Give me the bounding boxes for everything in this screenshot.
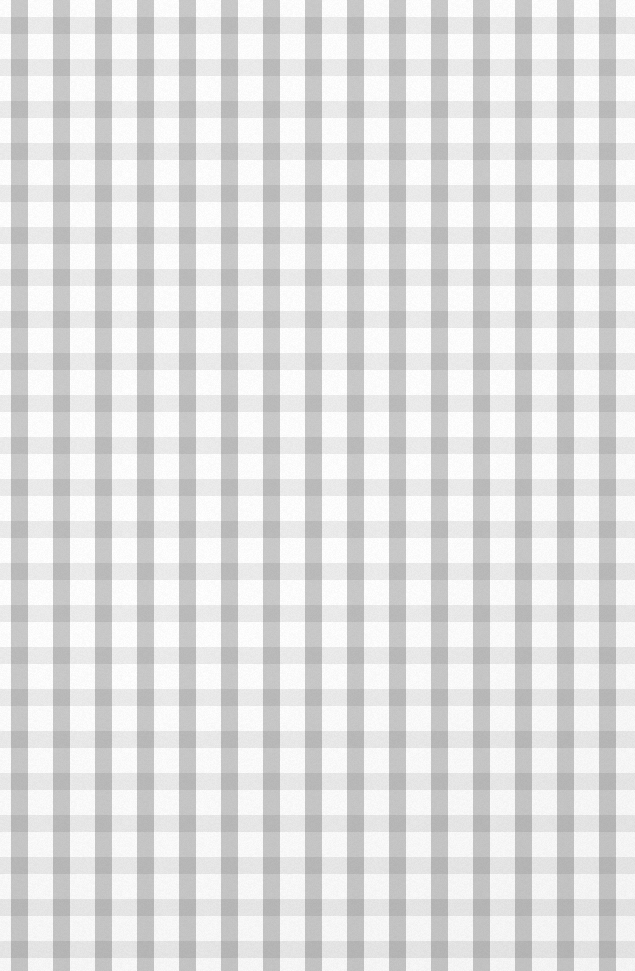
paper-grain-overlay bbox=[0, 0, 635, 971]
horizontal-stripes-layer bbox=[0, 0, 635, 971]
lighting-sheen-overlay bbox=[0, 0, 635, 971]
gingham-pattern-canvas bbox=[0, 0, 635, 971]
vertical-stripes-layer bbox=[0, 0, 635, 971]
